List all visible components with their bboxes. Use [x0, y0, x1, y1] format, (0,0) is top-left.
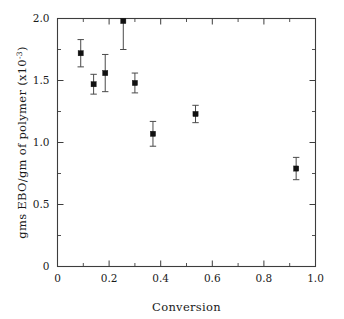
- x-tick-label: 0.8: [256, 272, 273, 284]
- x-axis-title: Conversion: [152, 300, 221, 314]
- y-tick-label: 0.5: [33, 198, 50, 210]
- data-point: [90, 74, 96, 94]
- data-point: [78, 40, 84, 67]
- data-point: [293, 157, 299, 179]
- y-tick-label: 1.5: [33, 74, 50, 86]
- data-marker: [150, 131, 155, 136]
- data-point: [102, 54, 108, 91]
- y-axis-title-group: gms EBO/gm of polymer (x10-3): [15, 46, 29, 238]
- data-marker: [294, 166, 299, 171]
- plot-frame: [58, 19, 316, 267]
- data-marker: [103, 70, 108, 75]
- data-point: [192, 105, 198, 122]
- data-point: [132, 73, 138, 93]
- scatter-plot-canvas: 00.20.40.60.81.000.51.01.52.0Conversiong…: [0, 0, 344, 319]
- data-marker: [121, 18, 126, 23]
- x-tick-label: 0.4: [152, 272, 169, 284]
- y-tick-label: 2.0: [33, 12, 50, 24]
- data-marker: [193, 111, 198, 116]
- x-tick-label: 0: [54, 272, 61, 284]
- data-series-group: [78, 18, 300, 179]
- data-marker: [91, 82, 96, 87]
- y-tick-label: 1.0: [33, 136, 50, 148]
- x-tick-label: 0.2: [101, 272, 118, 284]
- chart-figure: 00.20.40.60.81.000.51.01.52.0Conversiong…: [0, 0, 344, 319]
- data-marker: [132, 80, 137, 85]
- x-tick-label: 0.6: [204, 272, 221, 284]
- data-marker: [78, 51, 83, 56]
- x-tick-label: 1.0: [307, 272, 324, 284]
- data-point: [120, 18, 126, 49]
- y-tick-label: 0: [43, 260, 50, 272]
- data-point: [150, 121, 156, 146]
- y-axis-title: gms EBO/gm of polymer (x10-3): [15, 46, 29, 238]
